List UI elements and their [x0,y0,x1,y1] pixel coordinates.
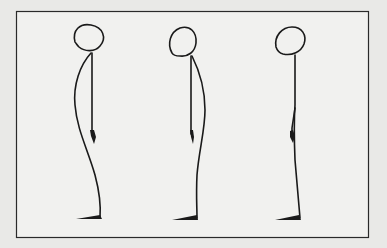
posture-diagram: Figure with pronounced curved back (sway… [0,0,387,248]
diagram-frame [17,12,369,238]
